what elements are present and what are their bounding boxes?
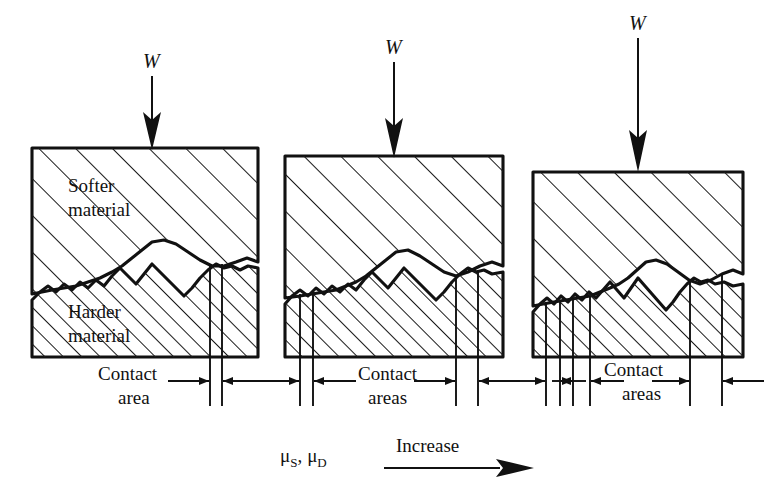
softer-label-line2-left: material [68,199,130,220]
mu-static-symbol: μ [280,445,290,466]
friction-coefficients-label: μS,μD [280,445,327,470]
load-arrow-left [143,76,161,150]
contact-label-line2-middle: areas [368,387,407,408]
load-label-left: W [143,50,162,72]
dimension-right: Contact areas [516,357,764,406]
load-arrow-right [629,38,647,172]
mu-separator: , [297,445,302,466]
load-label-middle: W [385,36,404,58]
mu-dynamic-symbol: μ [307,445,317,466]
dimension-left: Contact area [98,357,265,408]
panel-right: W [516,12,764,406]
contact-label-line2-left: area [118,387,150,408]
harder-label-line2-left: material [68,325,130,346]
softer-label-line1-left: Softer [68,175,115,196]
contact-label-line1-middle: Contact [358,363,418,384]
dimension-middle: Contact areas [262,357,520,408]
contact-label-line2-right: areas [622,383,661,404]
mu-static-subscript: S [290,455,297,470]
increase-arrow [384,459,534,477]
mu-dynamic-subscript: D [317,455,326,470]
contact-label-line1-left: Contact [98,363,158,384]
harder-label-line1-left: Harder [68,301,121,322]
load-label-right: W [629,12,648,34]
panel-left: W Softer material Harder material [28,50,265,408]
caption-group: μS,μD Increase [280,435,534,477]
figure-root: W Softer material Harder material [0,0,779,501]
contact-mechanics-diagram: W Softer material Harder material [0,0,779,501]
contact-label-line1-right: Contact [604,359,664,380]
load-arrow-middle [385,62,403,158]
panel-middle: W [262,36,520,408]
increase-label: Increase [396,435,459,456]
